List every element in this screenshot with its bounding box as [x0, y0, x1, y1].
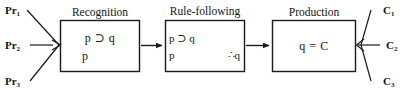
conclusion-label-2-text: C — [386, 39, 394, 51]
premise-label-2-sub: 2 — [17, 45, 21, 53]
inference-flow-diagram: Pr1 Pr2 Pr3 Recognition Rule-following P… — [0, 0, 413, 90]
premise-line-1 — [27, 10, 59, 45]
premise-line-3 — [30, 45, 59, 81]
premise-label-3-text: Pr — [5, 75, 17, 87]
stage3-formula-line-1: q = C — [272, 40, 356, 52]
conclusion-label-2-sub: 2 — [394, 45, 398, 53]
premise-label-1-text: Pr — [5, 4, 17, 16]
stage1-formula-line-2: p — [82, 50, 89, 62]
conclusion-label-3-text: C — [383, 75, 391, 87]
conclusion-label-3-sub: 3 — [391, 81, 395, 89]
premise-label-3: Pr3 — [5, 76, 20, 87]
premise-label-1: Pr1 — [5, 5, 20, 16]
conclusion-label-1: C1 — [383, 5, 394, 16]
stage-box-recognition — [61, 21, 140, 72]
stage2-conclusion-formula: ∴q — [180, 50, 240, 61]
premise-label-3-sub: 3 — [17, 81, 21, 89]
conclusion-label-2: C2 — [386, 40, 397, 51]
premise-label-2-text: Pr — [5, 39, 17, 51]
stage-title-production: Production — [272, 7, 356, 19]
premise-label-2: Pr2 — [5, 40, 20, 51]
stage-title-rule-following: Rule-following — [160, 6, 250, 18]
stage-title-recognition: Recognition — [60, 7, 140, 19]
stage2-formula-line-2: p — [169, 50, 175, 61]
stage1-formula-line-1: p ⊃ q — [60, 32, 140, 44]
stage2-formula-line-1: p ⊃ q — [169, 33, 195, 44]
conclusion-label-1-text: C — [383, 4, 391, 16]
conclusion-label-1-sub: 1 — [391, 10, 395, 18]
stage-box-rule-following — [166, 21, 245, 72]
conclusion-label-3: C3 — [383, 76, 394, 87]
premise-label-1-sub: 1 — [17, 10, 21, 18]
